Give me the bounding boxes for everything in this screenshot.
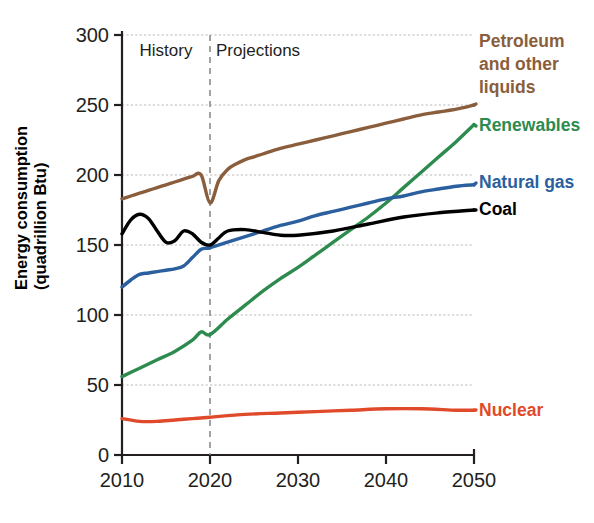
petroleum-label-line3: liquids: [479, 77, 536, 97]
x-tick-labels: 20102020203020402050: [100, 469, 497, 491]
y-tick-label: 50: [87, 374, 109, 396]
x-tick-label: 2040: [364, 469, 409, 491]
axes: [114, 31, 474, 464]
natural-gas-label: Natural gas: [479, 172, 575, 192]
energy-consumption-chart: 050100150200250300 20102020203020402050 …: [0, 0, 594, 523]
y-tick-label: 250: [76, 94, 109, 116]
y-tick-label: 0: [98, 444, 109, 466]
leader-line: [474, 125, 476, 126]
grid-lines: [122, 35, 474, 385]
projections-label: Projections: [216, 41, 300, 60]
history-label: History: [140, 41, 193, 60]
leader-line: [474, 104, 476, 105]
y-axis-title-line1: Energy consumption: [12, 126, 30, 290]
y-axis-title: Energy consumption (quadrillion Btu): [12, 126, 49, 290]
series-line-coal: [122, 210, 474, 245]
renewables-label: Renewables: [479, 115, 580, 135]
y-tick-label: 100: [76, 304, 109, 326]
leader-line: [474, 183, 476, 185]
series-line-nuclear: [122, 409, 474, 422]
y-tick-label: 150: [76, 234, 109, 256]
x-tick-marks: [122, 449, 474, 464]
y-tick-label: 200: [76, 164, 109, 186]
y-tick-label: 300: [76, 24, 109, 46]
coal-label: Coal: [479, 199, 517, 219]
x-tick-label: 2020: [188, 469, 233, 491]
y-tick-labels: 050100150200250300: [76, 24, 109, 466]
series-line-petroleum-and-other-liquids: [122, 105, 474, 203]
data-series-group: [122, 104, 476, 422]
y-tick-marks: [114, 35, 122, 455]
nuclear-label: Nuclear: [479, 400, 543, 420]
petroleum-label-line1: Petroleum: [479, 31, 565, 51]
x-tick-label: 2030: [276, 469, 321, 491]
series-labels: Petroleum and other liquids Renewables N…: [479, 31, 580, 420]
x-tick-label: 2010: [100, 469, 145, 491]
y-axis-title-line2: (quadrillion Btu): [31, 163, 49, 290]
petroleum-label-line2: and other: [479, 54, 559, 74]
chart-canvas: 050100150200250300 20102020203020402050 …: [0, 0, 594, 523]
x-tick-label: 2050: [452, 469, 497, 491]
series-line-renewables: [122, 125, 474, 377]
